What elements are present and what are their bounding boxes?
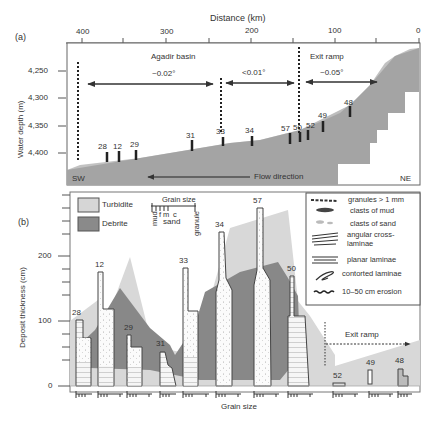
gradient-agadir: ~0.02° xyxy=(152,70,175,78)
legend-debrite-label: Debrite xyxy=(102,220,128,228)
legend-sand-clasts-label: clasts of sand xyxy=(350,220,396,228)
grain-label-sand: sand xyxy=(163,218,180,226)
column-label-50: 50 xyxy=(287,265,296,273)
figure-graphics xyxy=(0,0,435,434)
column-label-48: 48 xyxy=(395,357,404,365)
y-tick-4400: 4,400 xyxy=(28,149,48,157)
legend-contorted-laminae-label: contorted laminae xyxy=(342,270,402,278)
gradient-exit-ramp: ~0.05° xyxy=(320,69,343,77)
deposit-thickness-axis-title: Deposit thickness (cm) xyxy=(19,267,27,348)
core-label-52: 52 xyxy=(306,122,315,130)
legend-granules-label: granules > 1 mm xyxy=(348,196,404,204)
core-label-29: 29 xyxy=(130,141,139,149)
y-tick-4250: 4,250 xyxy=(28,67,48,75)
grain-label-f: f xyxy=(159,211,161,219)
grain-label-mud: mud xyxy=(151,211,159,226)
ne-label: NE xyxy=(400,175,411,183)
exit-ramp-label-b: Exit ramp xyxy=(345,331,379,339)
sw-label: SW xyxy=(72,175,85,183)
figure: (a) Distance (km) 400 300 200 100 0 4,25… xyxy=(0,0,435,434)
panel-b-label: (b) xyxy=(18,218,29,227)
legend-planar-laminae-label: planar laminae xyxy=(347,256,396,264)
water-depth-axis-title: Water depth (m) xyxy=(17,101,25,159)
grain-size-legend-title: Grain size xyxy=(162,196,196,204)
core-label-12: 12 xyxy=(113,143,122,151)
legend-cross-laminae-label: angular cross-laminae xyxy=(347,231,417,248)
grain-label-granule: granule xyxy=(193,211,201,236)
x-tick-100: 100 xyxy=(328,27,341,35)
flow-direction-label: Flow direction xyxy=(254,173,303,181)
region-agadir-basin: Agadir basin xyxy=(151,53,195,61)
core-label-49: 49 xyxy=(318,112,327,120)
y-tick-0: 0 xyxy=(48,382,52,390)
grain-size-axis-title: Grain size xyxy=(221,403,257,411)
column-label-31: 31 xyxy=(156,340,165,348)
gradient-middle: <0.01° xyxy=(242,69,265,77)
y-tick-4300: 4,300 xyxy=(28,94,48,102)
column-label-52: 52 xyxy=(333,372,342,380)
y-tick-200: 200 xyxy=(38,252,51,260)
core-label-50: 50 xyxy=(293,124,302,132)
core-label-48: 48 xyxy=(344,99,353,107)
column-label-12: 12 xyxy=(95,261,104,269)
column-label-29: 29 xyxy=(124,324,133,332)
core-label-31: 31 xyxy=(186,132,195,140)
core-label-28: 28 xyxy=(98,143,107,151)
legend-mud-clasts-label: clasts of mud xyxy=(350,207,394,215)
core-label-34: 34 xyxy=(245,127,254,135)
y-tick-100: 100 xyxy=(38,317,51,325)
column-label-57: 57 xyxy=(253,197,262,205)
panel-a-label: (a) xyxy=(15,33,26,42)
panel-a xyxy=(58,38,420,185)
column-label-34: 34 xyxy=(215,221,224,229)
y-tick-4350: 4,350 xyxy=(28,122,48,130)
x-tick-300: 300 xyxy=(160,28,173,36)
column-label-28: 28 xyxy=(72,309,81,317)
region-exit-ramp: Exit ramp xyxy=(310,53,344,61)
core-label-33: 33 xyxy=(216,128,225,136)
x-tick-400: 400 xyxy=(76,28,89,36)
turbidite-swatch xyxy=(78,198,99,212)
x-tick-200: 200 xyxy=(245,27,258,35)
core-label-57: 57 xyxy=(281,125,290,133)
legend-turbidite-label: Turbidite xyxy=(102,201,133,209)
legend-erosion-label: 10–50 cm erosion xyxy=(342,288,402,296)
debrite-swatch xyxy=(78,217,99,231)
column-label-49: 49 xyxy=(366,359,375,367)
x-tick-0: 0 xyxy=(416,27,420,35)
distance-axis-title: Distance (km) xyxy=(210,14,266,23)
column-label-33: 33 xyxy=(179,257,188,265)
